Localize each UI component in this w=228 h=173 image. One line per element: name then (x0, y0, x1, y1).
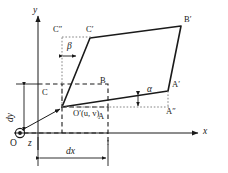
displacement-vector (22, 109, 60, 130)
z-axis-dot-icon (18, 131, 22, 135)
y-axis-label: y (33, 6, 37, 16)
origin-label: O (10, 139, 17, 149)
dx-dimension-label: dx (66, 147, 75, 157)
alpha-angle-label: α (147, 85, 152, 95)
point-label-a-prime: A′ (172, 80, 180, 89)
deformed-element-outline (62, 26, 181, 107)
point-label-c-prime: C′ (86, 25, 94, 34)
z-axis-label: z (28, 139, 32, 149)
point-label-o-prime: O′(u, v) (73, 109, 99, 118)
point-label-c-double-prime: C″ (53, 25, 62, 34)
point-label-a: A (98, 112, 104, 121)
deformation-diagram: y x O z O′(u, v) A B C A′ B′ C′ A″ C″ α … (0, 0, 228, 173)
x-axis-label: x (203, 127, 207, 137)
point-label-a-double-prime: A″ (166, 107, 176, 116)
beta-angle-label: β (67, 42, 72, 52)
diagram-canvas (0, 0, 228, 173)
dy-dimension-label: dy (6, 113, 16, 122)
point-label-c: C (42, 88, 48, 97)
point-label-b-prime: B′ (184, 15, 192, 24)
point-label-b: B (100, 76, 106, 85)
